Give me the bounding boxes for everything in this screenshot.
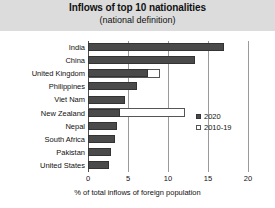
gridline: [248, 41, 249, 172]
bar-2020: [88, 56, 195, 64]
x-tick-label: 0: [76, 174, 100, 183]
chart-figure: Inflows of top 10 nationalities (nationa…: [0, 0, 275, 208]
bar-2020: [88, 96, 125, 104]
category-label: Pakistan: [1, 148, 85, 157]
legend-label: 2020: [204, 112, 221, 121]
category-label: India: [1, 43, 85, 52]
x-tick-label: 20: [236, 174, 260, 183]
category-label: Viet Nam: [1, 95, 85, 104]
bar-2020: [88, 109, 120, 117]
bar-2020: [88, 135, 115, 143]
bar-row: [88, 54, 248, 67]
bar-row: [88, 146, 248, 159]
filled-square-icon: [196, 114, 201, 119]
category-label: China: [1, 56, 85, 65]
category-label: United States: [1, 161, 85, 170]
bar-row: [88, 133, 248, 146]
category-label: United Kingdom: [1, 69, 85, 78]
plot-area: [88, 41, 248, 172]
category-label: New Zealand: [1, 109, 85, 118]
category-label: Philippines: [1, 82, 85, 91]
bar-row: [88, 67, 248, 80]
category-label: South Africa: [1, 135, 85, 144]
bar-row: [88, 80, 248, 93]
bar-row: [88, 41, 248, 54]
bar-2020: [88, 43, 224, 51]
x-tick-labels: 05101520: [0, 174, 275, 186]
category-label: Nepal: [1, 122, 85, 131]
bar-2020: [88, 148, 111, 156]
bar-2020: [88, 122, 117, 130]
legend-item: 2010-19: [196, 121, 266, 132]
bar-row: [88, 159, 248, 172]
x-axis-label: % of total inflows of foreign population: [0, 188, 275, 197]
category-axis: IndiaChinaUnited KingdomPhilippinesViet …: [0, 41, 88, 172]
bar-row: [88, 93, 248, 106]
bar-2020: [88, 161, 109, 169]
bar-2020: [88, 82, 137, 90]
x-tick-label: 15: [196, 174, 220, 183]
chart-title: Inflows of top 10 nationalities: [0, 2, 275, 13]
x-tick-label: 10: [156, 174, 180, 183]
chart-legend: 20202010-19: [196, 110, 266, 132]
legend-label: 2010-19: [204, 123, 232, 132]
bar-2020: [88, 69, 148, 77]
chart-subtitle: (national definition): [0, 15, 275, 25]
hollow-square-icon: [196, 125, 201, 130]
x-tick-label: 5: [116, 174, 140, 183]
legend-item: 2020: [196, 110, 266, 121]
